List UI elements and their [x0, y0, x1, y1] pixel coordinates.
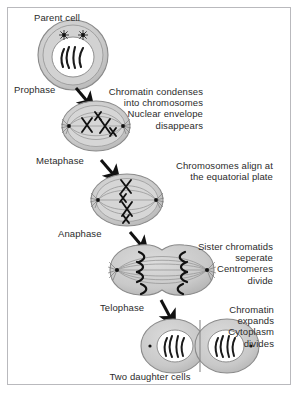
arrow-parent-to-prophase — [76, 88, 87, 101]
mitosis-diagram: Parent cell Prophase Chromatin condenses… — [0, 0, 300, 394]
description-prophase: Chromatin condenses into chromosomes Nuc… — [108, 86, 203, 131]
label-parent-cell: Parent cell — [34, 12, 80, 23]
centrosome-dot-left — [148, 344, 151, 347]
arrow-anaphase-to-telophase — [161, 300, 170, 317]
description-anaphase: Sister chromatids seperate Centromeres d… — [178, 241, 273, 286]
label-telophase: Telophase — [100, 302, 144, 313]
label-anaphase: Anaphase — [58, 228, 102, 239]
stage-parent-cell — [38, 20, 108, 90]
diagram-caption: Two daughter cells — [90, 371, 210, 382]
description-telophase: Chromatin expands Cytoplasm divides — [224, 304, 274, 349]
label-prophase: Prophase — [14, 84, 55, 95]
arrow-metaphase-to-anaphase — [130, 232, 141, 245]
label-metaphase: Metaphase — [36, 155, 84, 166]
arrow-prophase-to-metaphase — [101, 160, 113, 174]
description-metaphase: Chromosomes align at the equatorial plat… — [148, 160, 273, 182]
